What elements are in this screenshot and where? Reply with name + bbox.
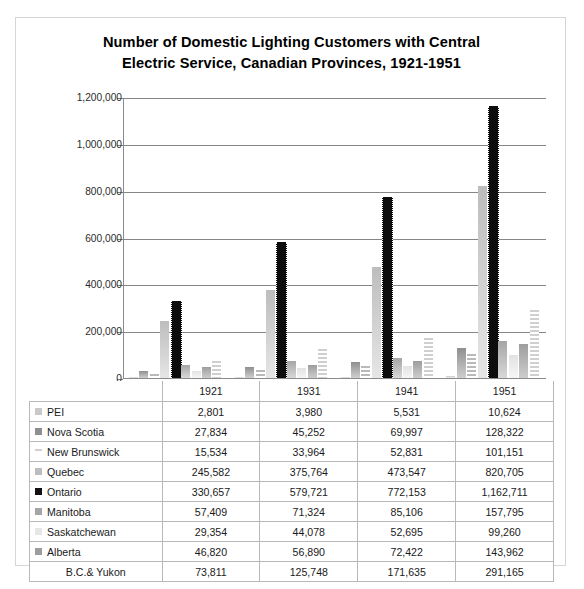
bar-bc-1951: [530, 310, 539, 378]
table-cell-sk-1951: 99,260: [456, 522, 554, 542]
bar-pei-1931: [235, 377, 244, 378]
bar-on-1921: [171, 301, 182, 378]
table-cell-bc-1931: 125,748: [260, 562, 358, 582]
bar-nb-1941: [361, 366, 370, 378]
table-cell-mb-1931: 71,324: [260, 502, 358, 522]
table-row: New Brunswick15,53433,96452,831101,151: [30, 442, 554, 462]
bar-ab-1921: [202, 367, 211, 378]
legend-swatch-icon-ab: [35, 548, 42, 555]
legend-swatch-icon-on: [35, 488, 42, 495]
plot-area: 1,200,0001,000,000800,000600,000400,0002…: [16, 18, 567, 386]
table-cell-mb-1921: 57,409: [162, 502, 260, 522]
table-cell-ab-1941: 72,422: [358, 542, 456, 562]
bar-group-1951: [440, 97, 546, 378]
bar-sk-1931: [297, 368, 306, 378]
legend-swatch-icon-pei: [35, 408, 42, 415]
x-axis-line: [123, 378, 546, 379]
bar-nb-1921: [150, 374, 159, 378]
bar-ns-1921: [139, 371, 148, 378]
table-column-header-1941: 1941: [358, 381, 456, 402]
legend-label-nb: New Brunswick: [47, 446, 119, 458]
table-cell-nb-1951: 101,151: [456, 442, 554, 462]
bar-qc-1921: [160, 321, 169, 379]
legend-item-sk: Saskatchewan: [30, 522, 163, 542]
legend-label-on: Ontario: [47, 486, 82, 498]
data-table-container: 1921193119411951PEI2,8013,9805,53110,624…: [29, 381, 554, 582]
y-axis-tick-label: 600,000: [50, 234, 122, 244]
table-cell-bc-1951: 291,165: [456, 562, 554, 582]
table-cell-pei-1931: 3,980: [260, 402, 358, 422]
bar-qc-1931: [266, 290, 275, 378]
bar-nb-1951: [467, 354, 476, 378]
table-row: PEI2,8013,9805,53110,624: [30, 402, 554, 422]
bar-group-1921: [123, 97, 229, 378]
bar-ns-1951: [457, 348, 466, 378]
table-cell-sk-1941: 52,695: [358, 522, 456, 542]
bar-pei-1951: [446, 376, 455, 378]
table-corner-cell: [30, 381, 163, 402]
legend-swatch-icon-mb: [35, 508, 42, 515]
table-row: B.C.& Yukon73,811125,748171,635291,165: [30, 562, 554, 582]
bar-qc-1941: [372, 267, 381, 378]
bar-ab-1941: [413, 361, 422, 378]
table-cell-ab-1951: 143,962: [456, 542, 554, 562]
table-row: Saskatchewan29,35444,07852,69599,260: [30, 522, 554, 542]
table-row: Nova Scotia27,83445,25269,997128,322: [30, 422, 554, 442]
table-cell-bc-1921: 73,811: [162, 562, 260, 582]
legend-item-nb: New Brunswick: [30, 442, 163, 462]
table-cell-nb-1941: 52,831: [358, 442, 456, 462]
legend-swatch-icon-nb: [35, 449, 42, 451]
table-cell-qc-1931: 375,764: [260, 462, 358, 482]
table-cell-ns-1921: 27,834: [162, 422, 260, 442]
table-row: Manitoba57,40971,32485,106157,795: [30, 502, 554, 522]
data-table: 1921193119411951PEI2,8013,9805,53110,624…: [29, 381, 554, 582]
legend-label-qc: Quebec: [47, 466, 84, 478]
bar-pei-1941: [341, 377, 350, 378]
y-axis-tick-label: 1,200,000: [50, 93, 122, 103]
bar-sk-1941: [403, 366, 412, 378]
table-cell-on-1931: 579,721: [260, 482, 358, 502]
legend-swatch-icon-qc: [35, 468, 42, 475]
bar-group-1931: [229, 97, 335, 378]
bar-mb-1931: [287, 361, 296, 378]
legend-label-pei: PEI: [47, 406, 64, 418]
legend-label-ns: Nova Scotia: [47, 426, 104, 438]
legend-item-mb: Manitoba: [30, 502, 163, 522]
table-cell-on-1951: 1,162,711: [456, 482, 554, 502]
bar-mb-1921: [181, 365, 190, 378]
legend-item-qc: Quebec: [30, 462, 163, 482]
table-cell-mb-1951: 157,795: [456, 502, 554, 522]
table-cell-nb-1931: 33,964: [260, 442, 358, 462]
chart-card: Number of Domestic Lighting Customers wi…: [15, 17, 566, 566]
legend-label-ab: Alberta: [47, 546, 81, 558]
table-column-header-1931: 1931: [260, 381, 358, 402]
table-cell-pei-1941: 5,531: [358, 402, 456, 422]
legend-item-pei: PEI: [30, 402, 163, 422]
bar-mb-1941: [393, 358, 402, 378]
bar-ns-1941: [351, 362, 360, 378]
table-cell-on-1941: 772,153: [358, 482, 456, 502]
table-cell-qc-1941: 473,547: [358, 462, 456, 482]
bar-group-1941: [335, 97, 441, 378]
bar-ab-1931: [308, 365, 317, 378]
legend-item-ns: Nova Scotia: [30, 422, 163, 442]
table-cell-ab-1931: 56,890: [260, 542, 358, 562]
table-cell-nb-1921: 15,534: [162, 442, 260, 462]
legend-item-ab: Alberta: [30, 542, 163, 562]
table-column-header-1921: 1921: [162, 381, 260, 402]
bar-sk-1921: [192, 371, 201, 378]
table-cell-sk-1921: 29,354: [162, 522, 260, 542]
table-cell-bc-1941: 171,635: [358, 562, 456, 582]
bar-on-1931: [276, 242, 287, 378]
bar-bc-1921: [212, 361, 221, 378]
table-cell-ns-1931: 45,252: [260, 422, 358, 442]
bar-ns-1931: [245, 367, 254, 378]
y-axis-tick-label: 800,000: [50, 187, 122, 197]
bar-on-1941: [382, 197, 393, 378]
table-cell-ns-1941: 69,997: [358, 422, 456, 442]
legend-label-bc: B.C.& Yukon: [66, 566, 126, 578]
legend-label-sk: Saskatchewan: [47, 526, 116, 538]
table-cell-on-1921: 330,657: [162, 482, 260, 502]
table-cell-sk-1931: 44,078: [260, 522, 358, 542]
bar-nb-1931: [256, 370, 265, 378]
